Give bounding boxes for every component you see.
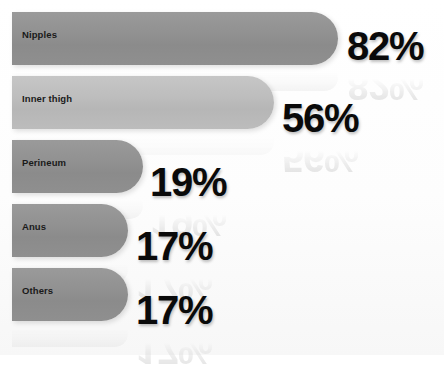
bar-value-inner-thigh: 56% (282, 98, 358, 138)
bar-label-perineum: Perineum (22, 157, 66, 168)
bar-label-anus: Anus (22, 221, 46, 232)
bar-value-anus: 17% (136, 226, 212, 266)
bar-label-inner-thigh: Inner thigh (22, 93, 72, 104)
chart-row: Others (0, 268, 444, 321)
bar-reflection-others (12, 321, 128, 347)
chart-row: Inner thigh (0, 76, 444, 129)
chart-row: Anus (0, 204, 444, 257)
bar-value-reflection-others: 17% (136, 330, 212, 368)
bar-nipples (12, 12, 338, 65)
bar-label-nipples: Nipples (22, 29, 57, 40)
bar-label-others: Others (22, 285, 53, 296)
bar-value-nipples: 82% (347, 26, 423, 66)
bar-value-perineum: 19% (150, 162, 226, 202)
bar-value-others: 17% (136, 290, 212, 330)
